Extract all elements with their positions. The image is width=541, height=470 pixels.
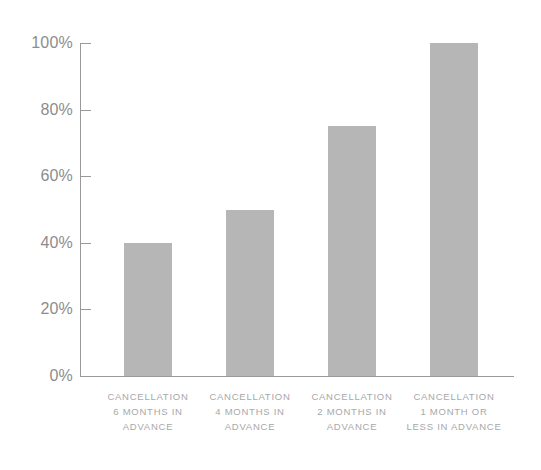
x-axis-line bbox=[80, 376, 514, 377]
bar[interactable] bbox=[328, 126, 376, 376]
y-axis-tick-label: 20% bbox=[3, 301, 73, 317]
bar[interactable] bbox=[430, 43, 478, 376]
x-axis-category-label: CANCELLATION1 MONTH ORLESS IN ADVANCE bbox=[403, 389, 505, 434]
x-axis-category-label: CANCELLATION2 MONTHS INADVANCE bbox=[301, 389, 403, 434]
y-axis-tick bbox=[81, 243, 91, 244]
x-axis-category-label-line: 1 MONTH OR bbox=[403, 404, 505, 419]
x-axis-category-label-line: CANCELLATION bbox=[403, 389, 505, 404]
y-axis-tick bbox=[81, 110, 91, 111]
y-axis-tick bbox=[81, 43, 91, 44]
x-axis-category-label-line: CANCELLATION bbox=[199, 389, 301, 404]
x-axis-category-label-line: LESS IN ADVANCE bbox=[403, 419, 505, 434]
bar[interactable] bbox=[124, 243, 172, 376]
y-axis-tick-label: 100% bbox=[3, 35, 73, 51]
x-axis-category-label-line: 2 MONTHS IN bbox=[301, 404, 403, 419]
x-axis-category-label-line: 6 MONTHS IN bbox=[97, 404, 199, 419]
y-axis-line bbox=[80, 43, 81, 377]
y-axis-tick bbox=[81, 176, 91, 177]
x-axis-category-label-line: CANCELLATION bbox=[301, 389, 403, 404]
x-axis-category-label: CANCELLATION6 MONTHS INADVANCE bbox=[97, 389, 199, 434]
x-axis-category-label-line: ADVANCE bbox=[97, 419, 199, 434]
y-axis-tick-label: 0% bbox=[3, 368, 73, 384]
y-axis-tick bbox=[81, 309, 91, 310]
x-axis-category-label-line: CANCELLATION bbox=[97, 389, 199, 404]
x-axis-category-label-line: ADVANCE bbox=[301, 419, 403, 434]
x-axis-category-label-line: ADVANCE bbox=[199, 419, 301, 434]
bar-chart: 100%80%60%40%20%0% CANCELLATION6 MONTHS … bbox=[0, 0, 541, 470]
bar[interactable] bbox=[226, 210, 274, 377]
x-axis-category-label-line: 4 MONTHS IN bbox=[199, 404, 301, 419]
x-axis-category-label: CANCELLATION4 MONTHS INADVANCE bbox=[199, 389, 301, 434]
y-axis-tick-label: 80% bbox=[3, 102, 73, 118]
y-axis-tick-label: 60% bbox=[3, 168, 73, 184]
y-axis-tick-label: 40% bbox=[3, 235, 73, 251]
